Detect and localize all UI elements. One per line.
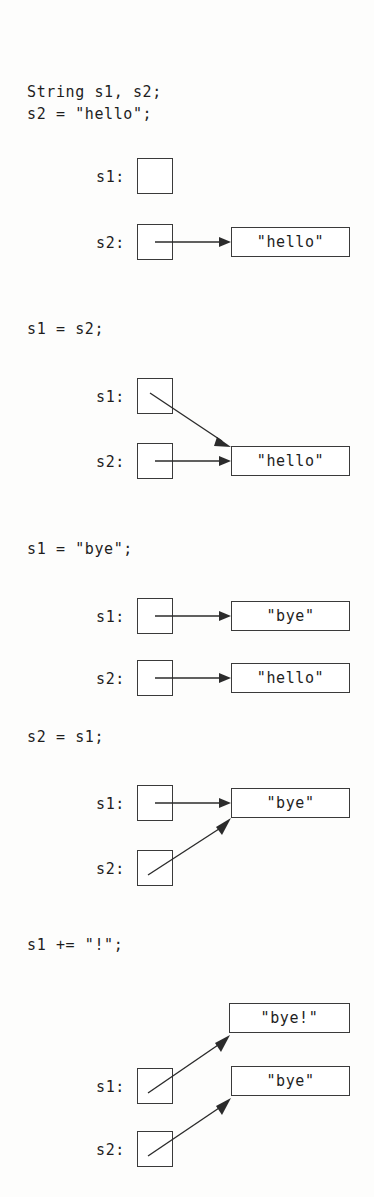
code-line-assign-s1-bye: s1 = "bye"; bbox=[27, 538, 133, 560]
code-line-append-bang: s1 += "!"; bbox=[27, 934, 123, 956]
ref-box-s1-sec1 bbox=[137, 158, 173, 194]
ref-box-s1-sec3 bbox=[137, 598, 173, 634]
value-box-hello-sec2: "hello" bbox=[231, 446, 350, 476]
value-box-bye-sec3: "bye" bbox=[231, 601, 350, 631]
var-label-s2-sec4: s2: bbox=[81, 860, 125, 878]
ref-box-s1-sec2 bbox=[137, 378, 173, 414]
value-box-hello-sec1: "hello" bbox=[231, 227, 350, 257]
code-line-assign-s1-s2: s1 = s2; bbox=[27, 318, 104, 340]
code-line-assign-hello: s2 = "hello"; bbox=[27, 103, 152, 125]
var-label-s1-sec3: s1: bbox=[81, 608, 125, 626]
ref-box-s2-sec4 bbox=[137, 850, 173, 886]
var-label-s1-sec4: s1: bbox=[81, 795, 125, 813]
ref-box-s2-sec5 bbox=[137, 1131, 173, 1167]
ref-box-s2-sec1 bbox=[137, 224, 173, 260]
value-box-hello-sec3: "hello" bbox=[231, 663, 350, 693]
value-box-bye-sec5: "bye" bbox=[231, 1066, 350, 1096]
var-label-s2-sec5: s2: bbox=[81, 1141, 125, 1159]
var-label-s1-sec5: s1: bbox=[81, 1078, 125, 1096]
var-label-s2-sec2: s2: bbox=[81, 453, 125, 471]
ref-box-s1-sec4 bbox=[137, 785, 173, 821]
ref-box-s1-sec5 bbox=[137, 1068, 173, 1104]
var-label-s2-sec3: s2: bbox=[81, 670, 125, 688]
value-box-bye-sec4: "bye" bbox=[231, 788, 350, 818]
var-label-s1-sec1: s1: bbox=[81, 168, 125, 186]
ref-box-s2-sec2 bbox=[137, 443, 173, 479]
value-box-bye-bang-sec5: "bye!" bbox=[229, 1003, 350, 1033]
code-line-declaration: String s1, s2; bbox=[27, 81, 162, 103]
var-label-s2-sec1: s2: bbox=[81, 234, 125, 252]
ref-box-s2-sec3 bbox=[137, 660, 173, 696]
var-label-s1-sec2: s1: bbox=[81, 388, 125, 406]
code-line-assign-s2-s1: s2 = s1; bbox=[27, 726, 104, 748]
figure-page: String s1, s2; s2 = "hello"; s1: s2: "he… bbox=[0, 0, 374, 1197]
